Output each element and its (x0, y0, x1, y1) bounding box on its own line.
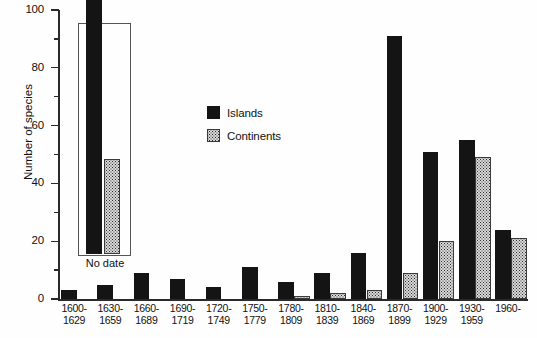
bar-continents (475, 157, 491, 299)
x-axis-tick-label-line: 1600- (56, 303, 92, 315)
x-axis-tick-label-line: 1689 (128, 315, 164, 327)
x-axis-tick-label: 1780-1809 (273, 303, 309, 326)
bar-islands (278, 282, 294, 299)
legend-label-islands: Islands (227, 107, 263, 119)
no-date-bar-islands (86, 0, 102, 254)
x-axis-tick-label-line: 1810- (309, 303, 345, 315)
x-axis-tick-label-line: 1719 (164, 315, 200, 327)
bar-group (203, 10, 239, 299)
x-axis-tick-label-line: 1900- (418, 303, 454, 315)
x-axis-tick-label-line: 1870- (381, 303, 417, 315)
y-axis-tick-label: 0 (0, 293, 44, 305)
x-axis-tick-label: 1630-1659 (92, 303, 128, 326)
bar-group (383, 10, 419, 299)
legend-label-continents: Continents (227, 130, 281, 142)
x-axis-tick-label-line: 1779 (237, 315, 273, 327)
x-axis-tick-label: 1600-1629 (56, 303, 92, 326)
x-axis-tick-label: 1960- (490, 303, 526, 315)
bar-group (347, 10, 383, 299)
bar-group (166, 10, 202, 299)
bar-group (130, 10, 166, 299)
x-axis-tick-label-line: 1959 (454, 315, 490, 327)
bar-group (239, 10, 275, 299)
bar-continents (294, 296, 310, 299)
x-axis-tick-label-line: 1750- (237, 303, 273, 315)
bar-continents (439, 241, 455, 299)
x-axis-tick-label-line: 1869 (345, 315, 381, 327)
x-axis-tick-label-line: 1749 (201, 315, 237, 327)
bar-group (420, 10, 456, 299)
bar-islands (387, 36, 403, 299)
x-axis-tick-label-line: 1630- (92, 303, 128, 315)
x-axis-tick-label-line: 1929 (418, 315, 454, 327)
x-axis-tick-label-line: 1930- (454, 303, 490, 315)
legend-swatch-islands-icon (207, 106, 220, 119)
bar-islands (206, 287, 222, 299)
x-axis-tick-label-line: 1809 (273, 315, 309, 327)
x-axis-tick-label-line: 1840- (345, 303, 381, 315)
x-axis-tick-label: 1930-1959 (454, 303, 490, 326)
bar-islands (351, 253, 367, 299)
bar-continents (367, 290, 383, 299)
bar-group (311, 10, 347, 299)
bar-islands (170, 279, 186, 299)
x-axis-tick-label-line: 1629 (56, 315, 92, 327)
x-axis-tick-label-line: 1960- (490, 303, 526, 315)
x-axis-tick-label-line: 1780- (273, 303, 309, 315)
bar-islands (61, 290, 77, 299)
legend-swatch-continents-icon (207, 129, 220, 142)
x-axis-tick-label: 1810-1839 (309, 303, 345, 326)
bar-islands (242, 267, 258, 299)
chart-legend: Islands Continents (207, 104, 281, 150)
bar-islands (423, 152, 439, 299)
x-axis-tick-label: 1750-1779 (237, 303, 273, 326)
bar-islands (459, 140, 475, 299)
x-axis-line (58, 299, 528, 301)
x-axis-tick-label: 1840-1869 (345, 303, 381, 326)
x-axis-tick-label: 1690-1719 (164, 303, 200, 326)
y-axis-tick-label: 20 (0, 235, 44, 247)
bar-islands (314, 273, 330, 299)
legend-item-continents: Continents (207, 127, 281, 144)
x-axis-tick-label-line: 1660- (128, 303, 164, 315)
bar-group (275, 10, 311, 299)
bar-islands (495, 230, 511, 299)
no-date-bar-continents (104, 159, 120, 254)
x-axis-tick-label-line: 1899 (381, 315, 417, 327)
x-axis-tick-label: 1870-1899 (381, 303, 417, 326)
bar-islands (97, 285, 113, 299)
x-axis-tick-label-line: 1659 (92, 315, 128, 327)
x-axis-tick-label: 1720-1749 (201, 303, 237, 326)
y-axis-tick-label: 100 (0, 4, 44, 16)
bar-continents (511, 238, 527, 299)
bar-islands (134, 273, 150, 299)
bar-continents (403, 273, 419, 299)
legend-item-islands: Islands (207, 104, 281, 121)
bar-group (456, 10, 492, 299)
x-axis-tick-label: 1660-1689 (128, 303, 164, 326)
bar-group (492, 10, 528, 299)
x-axis-tick-label-line: 1720- (201, 303, 237, 315)
y-axis-title: Number of species (22, 52, 34, 212)
x-axis-tick-label-line: 1839 (309, 315, 345, 327)
bar-continents (330, 293, 346, 299)
no-date-inset-label: No date (66, 257, 144, 269)
bar-chart-figure: 020406080100 Number of species 1600-1629… (0, 0, 537, 338)
x-axis-tick-label: 1900-1929 (418, 303, 454, 326)
x-axis-tick-label-line: 1690- (164, 303, 200, 315)
